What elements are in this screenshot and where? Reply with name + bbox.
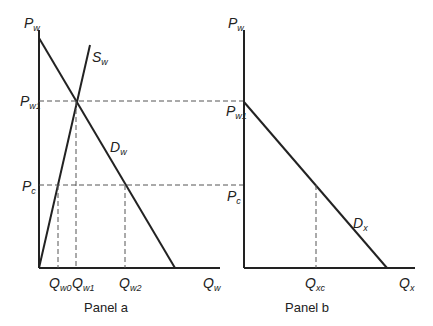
panel-a-supply-curve bbox=[39, 45, 90, 268]
pw1-label: Pw1 bbox=[20, 93, 41, 111]
panel-a-x-axis-label: Qw bbox=[203, 275, 221, 293]
panel-b-x-axis-label: Qx bbox=[399, 275, 415, 293]
supply-label: Sw bbox=[92, 49, 108, 67]
pc-label: Pc bbox=[22, 178, 36, 196]
panel-a-demand-curve bbox=[39, 38, 175, 268]
panel-b-caption: Panel b bbox=[285, 300, 329, 315]
panel-a-y-axis-label: Pw bbox=[24, 15, 40, 33]
panel-b-demand-label: Dx bbox=[353, 215, 368, 233]
panel-a-caption: Panel a bbox=[84, 300, 129, 315]
diagram-canvas: Pw Sw Dw Pw1 Pc Qw0 Qw1 Qw2 Qw Panel a P… bbox=[0, 0, 433, 326]
qw2-label: Qw2 bbox=[119, 275, 141, 293]
demand-label: Dw bbox=[110, 139, 127, 157]
panel-b-pc-label: Pc bbox=[227, 188, 241, 206]
qw1-label: Qw1 bbox=[72, 275, 94, 293]
qxc-label: Qxc bbox=[305, 275, 325, 293]
panel-b-y-axis-label: Pw bbox=[228, 15, 244, 33]
qw0-label: Qw0 bbox=[49, 275, 71, 293]
